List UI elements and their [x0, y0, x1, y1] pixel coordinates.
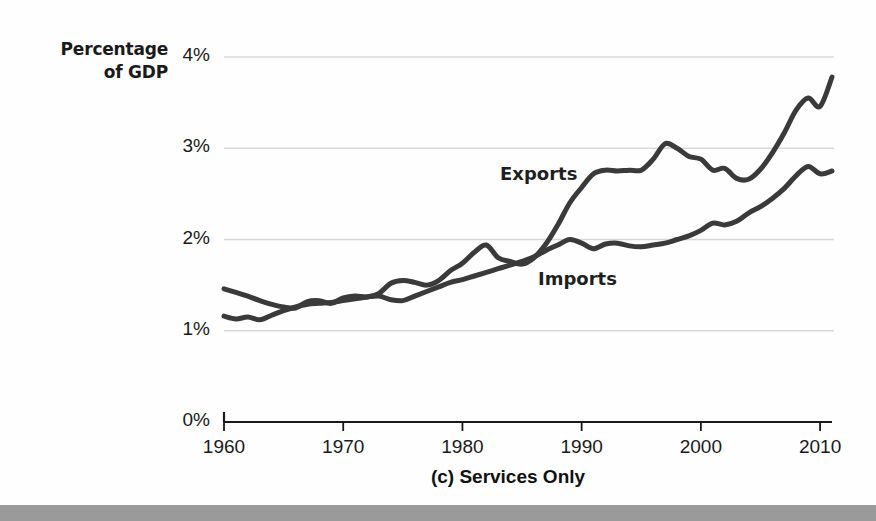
- y-tick-label: 2%: [164, 227, 210, 249]
- y-tick-label: 4%: [164, 44, 210, 66]
- figure-panel: Percentage of GDP 0%1%2%3%4% 19601970198…: [0, 0, 876, 521]
- y-tick-label: 3%: [164, 135, 210, 157]
- figure-caption: (c) Services Only: [288, 466, 728, 488]
- x-tick-label: 1990: [542, 436, 622, 458]
- x-tick-label: 1960: [184, 436, 264, 458]
- data-series-group: [224, 77, 832, 320]
- x-tick-label: 2010: [780, 436, 860, 458]
- series-label-imports: Imports: [538, 268, 617, 289]
- gridlines-group: [224, 57, 834, 331]
- page-bottom-bar: [0, 505, 876, 521]
- x-tickmarks-group: [224, 422, 820, 431]
- series-label-exports: Exports: [500, 163, 577, 184]
- y-tick-label: 0%: [164, 409, 210, 431]
- series-line-exports: [224, 77, 832, 308]
- x-tick-label: 1970: [303, 436, 383, 458]
- x-tick-label: 2000: [661, 436, 741, 458]
- series-line-imports: [224, 166, 832, 319]
- y-tick-label: 1%: [164, 318, 210, 340]
- x-tick-label: 1980: [422, 436, 502, 458]
